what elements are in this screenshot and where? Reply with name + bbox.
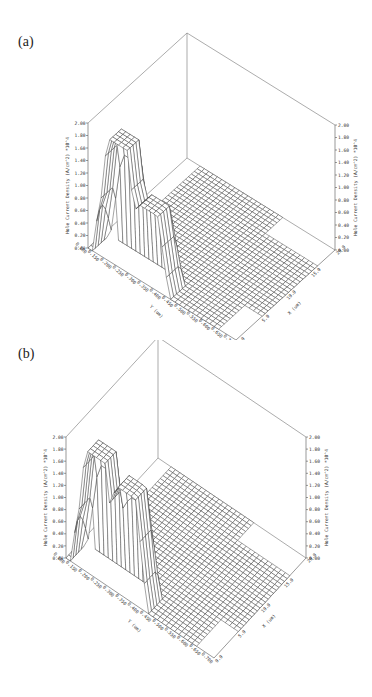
svg-text:1.20: 1.20 bbox=[338, 173, 349, 178]
svg-text:0.300: 0.300 bbox=[102, 585, 115, 598]
svg-text:X (um): X (um) bbox=[287, 300, 302, 315]
svg-text:0.350: 0.350 bbox=[114, 593, 127, 606]
panel-b: (b) 0.000.000.200.200.400.400.600.600.80… bbox=[0, 340, 372, 697]
svg-text:2.00: 2.00 bbox=[309, 435, 320, 440]
svg-text:X (um): X (um) bbox=[261, 613, 276, 628]
svg-text:1.60: 1.60 bbox=[309, 459, 320, 464]
svg-text:1.20: 1.20 bbox=[74, 171, 85, 176]
svg-text:0.60: 0.60 bbox=[74, 208, 85, 213]
svg-text:0.0: 0.0 bbox=[214, 654, 224, 664]
svg-text:0.20: 0.20 bbox=[338, 235, 349, 240]
svg-text:Hole Current Density (A/cm^2): Hole Current Density (A/cm^2) *10^4 bbox=[43, 449, 48, 546]
svg-text:0.80: 0.80 bbox=[309, 507, 320, 512]
svg-text:0.400: 0.400 bbox=[149, 287, 162, 300]
svg-text:0.40: 0.40 bbox=[338, 223, 349, 228]
svg-text:1.80: 1.80 bbox=[52, 447, 63, 452]
svg-text:Hole Current Density (A/cm^2): Hole Current Density (A/cm^2) *10^4 bbox=[324, 449, 329, 546]
svg-text:0.700: 0.700 bbox=[201, 651, 214, 664]
svg-text:1.40: 1.40 bbox=[309, 471, 320, 476]
svg-text:0.250: 0.250 bbox=[90, 576, 103, 589]
svg-text:0.40: 0.40 bbox=[309, 531, 320, 536]
svg-text:1.60: 1.60 bbox=[74, 146, 85, 151]
svg-text:0.80: 0.80 bbox=[52, 507, 63, 512]
svg-text:1.80: 1.80 bbox=[309, 447, 320, 452]
panel-a: (a) 0.000.000.200.200.400.400.600.600.80… bbox=[0, 0, 372, 340]
svg-text:0.350: 0.350 bbox=[136, 280, 149, 293]
plot-group: 0.000.000.200.200.400.400.600.600.800.80… bbox=[43, 340, 329, 665]
svg-text:2.00: 2.00 bbox=[52, 435, 63, 440]
svg-text:1.80: 1.80 bbox=[74, 133, 85, 138]
surface-mesh bbox=[88, 129, 318, 329]
svg-text:0.650: 0.650 bbox=[210, 326, 223, 339]
svg-text:1.80: 1.80 bbox=[338, 135, 349, 140]
svg-text:1.40: 1.40 bbox=[74, 158, 85, 163]
svg-text:0.60: 0.60 bbox=[52, 519, 63, 524]
svg-text:0.300: 0.300 bbox=[124, 272, 137, 285]
svg-text:0.650: 0.650 bbox=[188, 643, 201, 656]
svg-text:2.00: 2.00 bbox=[338, 123, 349, 128]
svg-text:0.80: 0.80 bbox=[74, 196, 85, 201]
svg-text:0.20: 0.20 bbox=[309, 544, 320, 549]
svg-text:1.40: 1.40 bbox=[52, 471, 63, 476]
svg-text:0.200: 0.200 bbox=[77, 568, 90, 581]
svg-text:1.20: 1.20 bbox=[309, 483, 320, 488]
svg-text:1.60: 1.60 bbox=[338, 148, 349, 153]
surface-plot-a: 0.000.000.200.200.400.400.600.600.800.80… bbox=[0, 0, 372, 340]
svg-text:0.200: 0.200 bbox=[99, 257, 112, 270]
svg-text:Y (um): Y (um) bbox=[127, 618, 142, 633]
svg-text:0.150: 0.150 bbox=[87, 249, 100, 262]
surface-plot-b: 0.000.000.200.200.400.400.600.600.800.80… bbox=[0, 340, 372, 697]
svg-text:Y (um): Y (um) bbox=[149, 304, 164, 319]
svg-text:1.00: 1.00 bbox=[309, 495, 320, 500]
svg-text:0.40: 0.40 bbox=[74, 221, 85, 226]
svg-text:1.00: 1.00 bbox=[338, 185, 349, 190]
svg-text:0.80: 0.80 bbox=[338, 198, 349, 203]
svg-text:0.20: 0.20 bbox=[52, 544, 63, 549]
svg-text:Hole Current Density (A/cm^2): Hole Current Density (A/cm^2) *10^4 bbox=[353, 139, 358, 236]
svg-text:0.250: 0.250 bbox=[112, 264, 125, 277]
svg-text:0.60: 0.60 bbox=[338, 210, 349, 215]
svg-text:1.00: 1.00 bbox=[52, 495, 63, 500]
surface-mesh bbox=[66, 440, 290, 646]
svg-text:0.150: 0.150 bbox=[65, 560, 78, 573]
svg-text:0.40: 0.40 bbox=[52, 531, 63, 536]
svg-text:Hole Current Density (A/cm^2): Hole Current Density (A/cm^2) *10^4 bbox=[65, 137, 70, 234]
svg-text:0.20: 0.20 bbox=[74, 233, 85, 238]
svg-text:1.20: 1.20 bbox=[52, 483, 63, 488]
svg-text:2.00: 2.00 bbox=[74, 121, 85, 126]
plot-group: 0.000.000.200.200.400.400.600.600.800.80… bbox=[65, 33, 358, 340]
svg-text:0.400: 0.400 bbox=[127, 601, 140, 614]
svg-text:1.40: 1.40 bbox=[338, 160, 349, 165]
svg-text:0.60: 0.60 bbox=[309, 519, 320, 524]
svg-text:1.00: 1.00 bbox=[74, 183, 85, 188]
svg-text:1.60: 1.60 bbox=[52, 459, 63, 464]
